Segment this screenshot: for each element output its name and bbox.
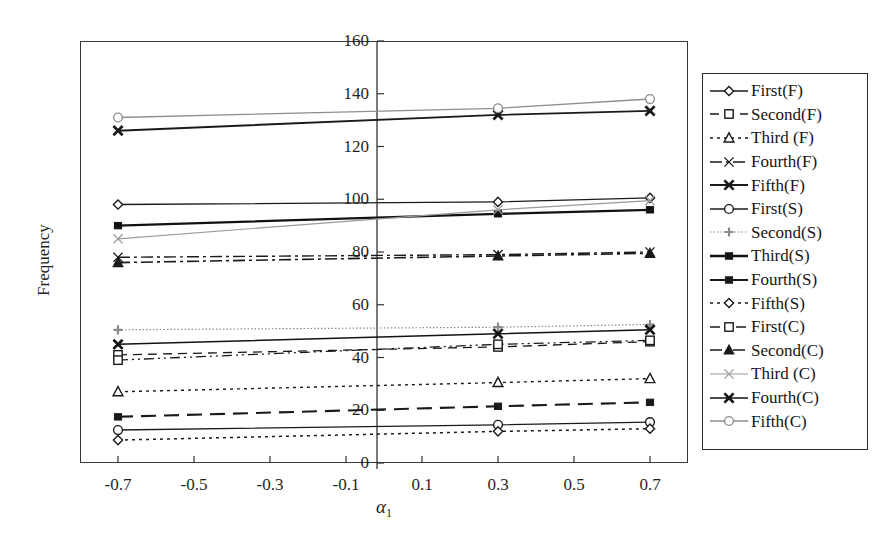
y-tick-label: 60 (323, 295, 369, 315)
legend-swatch (709, 199, 749, 219)
legend-item-fifth-s[interactable]: Fifth(S) (709, 291, 863, 315)
legend-label: First(F) (749, 82, 803, 99)
legend-swatch (709, 340, 749, 360)
legend-item-first-f[interactable]: First(F) (709, 79, 863, 103)
legend-item-fourth-f[interactable]: Fourth(F) (709, 150, 863, 174)
legend-label: Third (C) (749, 365, 816, 382)
legend-label: Fourth(C) (749, 389, 819, 406)
legend-item-second-f[interactable]: Second(F) (709, 103, 863, 127)
legend-label: First(C) (749, 318, 805, 335)
legend-label: First(S) (749, 200, 803, 217)
legend-label: Fifth(F) (749, 177, 805, 194)
y-tick-label: 80 (323, 242, 369, 262)
legend-label: Second(S) (749, 224, 822, 241)
y-axis-title: Frequency (34, 224, 54, 296)
x-tick-label: 0.3 (468, 475, 528, 495)
y-tick-label: 120 (323, 137, 369, 157)
legend-swatch (709, 128, 749, 148)
x-tick-label: -0.1 (316, 475, 376, 495)
y-tick-label: 160 (323, 31, 369, 51)
legend-item-second-c[interactable]: Second(C) (709, 339, 863, 363)
legend-swatch (709, 222, 749, 242)
legend-swatch (709, 411, 749, 431)
legend-label: Second(F) (749, 106, 822, 123)
legend-item-fourth-s[interactable]: Fourth(S) (709, 268, 863, 292)
legend-item-third-c[interactable]: Third (C) (709, 362, 863, 386)
x-axis-title-symbol: α (376, 496, 386, 517)
y-tick-label: 40 (323, 348, 369, 368)
legend-swatch (709, 246, 749, 266)
legend-item-third-s[interactable]: Third(S) (709, 244, 863, 268)
legend-swatch (709, 270, 749, 290)
x-tick-label: 0.7 (620, 475, 680, 495)
legend-label: Fifth(S) (749, 295, 805, 312)
legend-label: Second(C) (749, 342, 824, 359)
legend-swatch (709, 388, 749, 408)
legend-swatch (709, 175, 749, 195)
legend-label: Third (F) (749, 129, 814, 146)
x-axis-title-subscript: 1 (386, 506, 392, 520)
legend-item-fourth-c[interactable]: Fourth(C) (709, 386, 863, 410)
legend-label: Third(S) (749, 247, 810, 264)
y-axis-title-wrap: Frequency (30, 160, 56, 360)
x-tick-label: -0.7 (88, 475, 148, 495)
legend-label: Fourth(F) (749, 153, 817, 170)
legend-label: Fifth(C) (749, 413, 807, 430)
legend-item-first-s[interactable]: First(S) (709, 197, 863, 221)
legend[interactable]: First(F)Second(F)Third (F)Fourth(F)Fifth… (702, 73, 868, 450)
y-tick-label: 140 (323, 84, 369, 104)
legend-item-first-c[interactable]: First(C) (709, 315, 863, 339)
legend-swatch (709, 152, 749, 172)
legend-item-fifth-f[interactable]: Fifth(F) (709, 173, 863, 197)
legend-label: Fourth(S) (749, 271, 817, 288)
x-tick-label: 0.1 (392, 475, 452, 495)
legend-item-second-s[interactable]: Second(S) (709, 221, 863, 245)
x-tick-label: -0.3 (240, 475, 300, 495)
legend-item-fifth-c[interactable]: Fifth(C) (709, 409, 863, 433)
x-axis-title: α1 (376, 496, 392, 518)
legend-swatch (709, 317, 749, 337)
y-tick-label: 20 (323, 400, 369, 420)
chart-figure: Frequency α1 020406080100120140160 -0.7-… (0, 0, 882, 539)
legend-swatch (709, 81, 749, 101)
legend-swatch (709, 364, 749, 384)
legend-item-third-f[interactable]: Third (F) (709, 126, 863, 150)
y-tick-label: 0 (323, 453, 369, 473)
legend-swatch (709, 104, 749, 124)
x-tick-label: 0.5 (544, 475, 604, 495)
legend-swatch (709, 293, 749, 313)
y-tick-label: 100 (323, 189, 369, 209)
x-tick-label: -0.5 (164, 475, 224, 495)
plot-area (80, 41, 688, 463)
